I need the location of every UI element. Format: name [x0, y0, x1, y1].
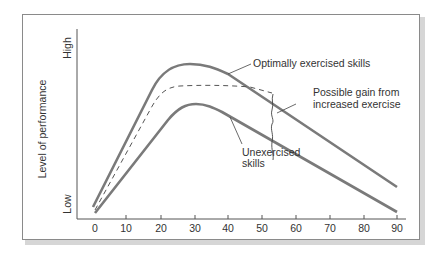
chart-svg: 0 10 20 30 40 50 60 70 80 90 High Low Le…: [0, 0, 445, 257]
optimal-label: Optimally exercised skills: [253, 57, 370, 69]
x-tick-50: 50: [256, 222, 268, 234]
x-tick-30: 30: [189, 222, 201, 234]
gain-label-line1: Possible gain from: [313, 86, 400, 98]
x-tick-0: 0: [92, 222, 98, 234]
x-tick-60: 60: [290, 222, 302, 234]
x-tick-40: 40: [222, 222, 234, 234]
optimal-leader: [228, 64, 251, 74]
y-low-label: Low: [61, 194, 73, 214]
y-axis-title: Level of performance: [36, 80, 48, 179]
x-tick-90: 90: [391, 222, 403, 234]
x-tick-20: 20: [155, 222, 167, 234]
gain-label-line2: increased exercise: [313, 98, 401, 110]
x-tick-10: 10: [120, 222, 132, 234]
x-tick-labels: 0 10 20 30 40 50 60 70 80 90: [92, 222, 403, 234]
x-tick-80: 80: [358, 222, 370, 234]
x-tick-70: 70: [324, 222, 336, 234]
x-ticks: [126, 215, 397, 219]
y-high-label: High: [61, 37, 73, 59]
unexercised-label-line2: skills: [242, 157, 265, 169]
